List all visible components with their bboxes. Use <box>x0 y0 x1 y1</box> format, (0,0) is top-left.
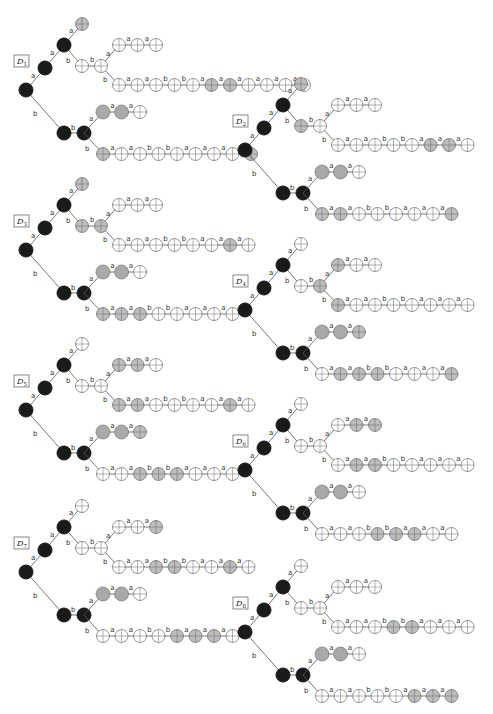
edge-label: a <box>250 452 254 460</box>
edge-label: a <box>364 577 368 585</box>
edge-label: b <box>382 295 387 303</box>
edge-label: a <box>345 577 349 585</box>
edge-label: a <box>237 395 241 403</box>
edge-label: b <box>147 464 152 472</box>
edge-label: a <box>31 232 35 240</box>
edge-label: b <box>401 135 406 143</box>
edge-label: b <box>322 296 327 304</box>
edge-label: b <box>71 444 76 452</box>
edge-label: a <box>364 255 368 263</box>
edge-label: b <box>90 538 95 546</box>
edge-label: a <box>106 370 110 378</box>
edge-label: a <box>145 35 149 43</box>
tree-id-subscript: 7 <box>24 543 28 549</box>
edge-label: a <box>237 75 241 83</box>
edge-label: b <box>163 395 168 403</box>
black-node-icon <box>276 98 290 112</box>
gray-node-icon <box>334 485 348 499</box>
edge-label: a <box>419 455 423 463</box>
tree-id-subscript: 5 <box>24 381 28 387</box>
edge-label: a <box>110 464 114 472</box>
tree-edge <box>26 572 64 615</box>
edge-label: b <box>166 626 171 634</box>
edge-label: b <box>252 490 257 498</box>
black-node-icon <box>238 463 252 477</box>
edge-label: b <box>85 145 90 153</box>
edge-label: a <box>456 617 460 625</box>
edge-label: b <box>166 144 171 152</box>
edge-label: a <box>126 235 130 243</box>
edge-label: a <box>348 644 352 652</box>
edge-label: a <box>129 626 133 634</box>
edge-label: a <box>325 270 329 278</box>
edge-label: a <box>110 584 114 592</box>
edge-label: a <box>237 557 241 565</box>
tree-d3: D3aaabbbbabaaaabbaaaabaaaabbaaa <box>14 178 255 321</box>
edge-label: b <box>304 525 309 533</box>
edge-label: a <box>348 524 352 532</box>
edge-label: b <box>33 270 38 278</box>
edge-label: a <box>308 175 312 183</box>
edge-label: a <box>345 255 349 263</box>
edge-label: b <box>285 437 290 445</box>
edge-label: b <box>66 217 71 225</box>
edge-label: a <box>440 204 444 212</box>
edge-label: b <box>71 606 76 614</box>
edge-label: a <box>126 35 130 43</box>
tree-d6: D6aaabbbbabaaaabbaaaabaaaabbaaa <box>233 398 474 541</box>
edge-label: a <box>419 295 423 303</box>
black-node-icon <box>19 403 33 417</box>
edge-label: a <box>288 247 292 255</box>
edge-label: a <box>269 591 273 599</box>
black-node-icon <box>276 580 290 594</box>
gray-node-icon <box>96 265 110 279</box>
edge-label: a <box>419 135 423 143</box>
edge-label: b <box>33 592 38 600</box>
edge-label: a <box>422 686 426 694</box>
edge-label: a <box>364 135 368 143</box>
edge-label: b <box>85 465 90 473</box>
edge-label: a <box>348 162 352 170</box>
edge-label: a <box>145 517 149 525</box>
edge-label: a <box>110 422 114 430</box>
edge-label: a <box>440 364 444 372</box>
edge-label: a <box>348 322 352 330</box>
edge-label: a <box>89 597 93 605</box>
edge-label: a <box>31 72 35 80</box>
black-node-icon <box>57 38 71 52</box>
edge-label: a <box>219 235 223 243</box>
edge-label: b <box>147 626 152 634</box>
black-node-icon <box>276 506 290 520</box>
edge-label: a <box>221 144 225 152</box>
edge-label: a <box>288 569 292 577</box>
edge-label: a <box>269 109 273 117</box>
edge-label: a <box>145 395 149 403</box>
tree-edge <box>26 90 64 133</box>
black-node-icon <box>257 603 271 617</box>
edge-label: b <box>385 524 390 532</box>
black-node-icon <box>276 258 290 272</box>
edge-label: a <box>203 464 207 472</box>
gray-node-icon <box>115 105 129 119</box>
tree-d7: D7aaabbbbabaaaabbaaaabaaaabbaaa <box>14 500 255 643</box>
edge-label: b <box>385 204 390 212</box>
edge-label: a <box>348 686 352 694</box>
black-node-icon <box>57 286 71 300</box>
edge-label: a <box>184 626 188 634</box>
edge-label: a <box>50 531 54 539</box>
tree-d1: D1aaabbbbabaaaabbaaaaaaabaaaabbaaa <box>14 18 311 161</box>
edge-label: a <box>184 144 188 152</box>
edge-label: b <box>182 395 187 403</box>
tree-edge <box>26 250 64 293</box>
edge-label: a <box>345 295 349 303</box>
edge-label: a <box>269 429 273 437</box>
edge-label: a <box>364 455 368 463</box>
black-node-icon <box>257 441 271 455</box>
tree-edge <box>245 470 283 513</box>
edge-label: a <box>325 110 329 118</box>
edge-label: a <box>200 75 204 83</box>
edge-label: b <box>385 364 390 372</box>
edge-label: a <box>221 626 225 634</box>
edge-label: a <box>106 532 110 540</box>
edge-label: a <box>345 415 349 423</box>
